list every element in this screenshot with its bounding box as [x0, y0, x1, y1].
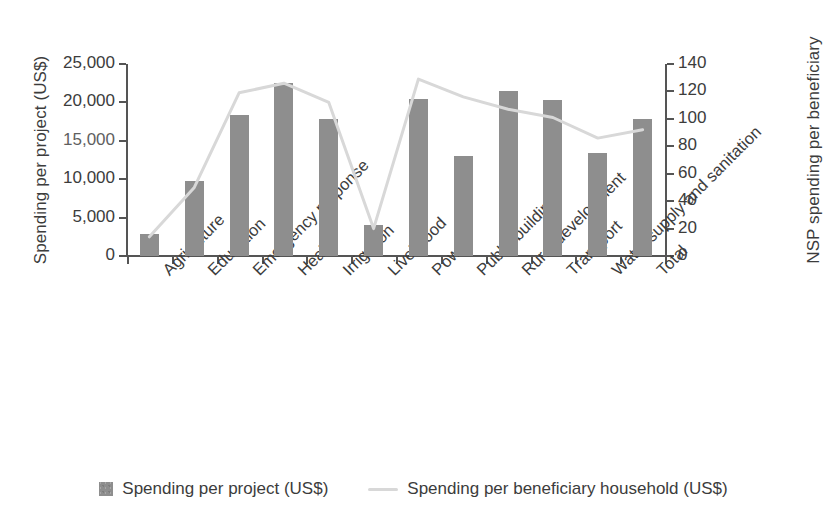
y-axis-right-tick — [667, 63, 674, 65]
y-axis-right-tick — [667, 145, 674, 147]
chart-figure: Spending per project (US$) NSP spending … — [0, 0, 827, 509]
x-axis-label-agriculture: Agriculture — [159, 266, 172, 279]
line-series — [127, 64, 665, 256]
y-axis-right-tick — [667, 118, 674, 120]
legend-item-line: Spending per beneficiary household (US$) — [368, 479, 727, 499]
y-axis-right-tick-label: 100 — [678, 108, 706, 128]
y-axis-right-tick-label: 20 — [678, 218, 697, 238]
y-axis-left-tick-label: 25,000 — [43, 53, 115, 73]
x-axis-label-livelihood: Livelihood — [384, 266, 397, 279]
x-axis-label-education: Education — [204, 266, 217, 279]
y-axis-left-tick — [119, 140, 126, 142]
y-axis-right-tick-label: 120 — [678, 80, 706, 100]
plot-area — [127, 64, 665, 256]
x-axis-tick — [127, 257, 129, 264]
y-axis-right-tick — [667, 173, 674, 175]
legend-item-line-label: Spending per beneficiary household (US$) — [407, 479, 727, 499]
x-axis-label-health: Health — [294, 266, 307, 279]
y-axis-left-tick — [119, 255, 126, 257]
y-axis-left-tick — [119, 178, 126, 180]
y-axis-left-tick-label: 15,000 — [43, 130, 115, 150]
x-axis-label-transport: Transport — [563, 266, 576, 279]
chart-legend: Spending per project (US$) Spending per … — [0, 474, 827, 504]
y-axis-left-tick-label: 0 — [43, 245, 115, 265]
y-axis-right-title-line1: NSP spending per beneficiary — [804, 20, 824, 280]
x-axis-label-total: Total — [653, 266, 666, 279]
y-axis-right-tick-label: 80 — [678, 135, 697, 155]
y-axis-right-tick — [667, 90, 674, 92]
y-axis-left-tick-label: 5,000 — [43, 207, 115, 227]
x-axis-label-emergency-response: Emergency response — [249, 266, 262, 279]
y-axis-left-tick-label: 10,000 — [43, 168, 115, 188]
y-axis-left-title: Spending per project (US$) — [31, 45, 51, 275]
line-series-path — [149, 79, 642, 237]
x-axis-label-rural-development: Rural development — [518, 266, 531, 279]
x-axis-label-power: Power — [428, 266, 441, 279]
y-axis-left-tick-label: 20,000 — [43, 91, 115, 111]
y-axis-left-tick — [119, 217, 126, 219]
legend-bar-swatch-icon — [99, 482, 113, 496]
legend-item-bar-label: Spending per project (US$) — [122, 479, 328, 499]
y-axis-right-tick-label: 140 — [678, 53, 706, 73]
legend-line-swatch-icon — [368, 488, 398, 491]
x-axis-label-water-supply-and-sanitation: Water supply and sanitation — [608, 266, 621, 279]
x-axis-label-irrigation: Irrigation — [339, 266, 352, 279]
x-axis-label-public-building: Public building — [473, 266, 486, 279]
y-axis-left-tick — [119, 101, 126, 103]
y-axis-left-tick — [119, 63, 126, 65]
legend-item-bar: Spending per project (US$) — [99, 479, 328, 499]
